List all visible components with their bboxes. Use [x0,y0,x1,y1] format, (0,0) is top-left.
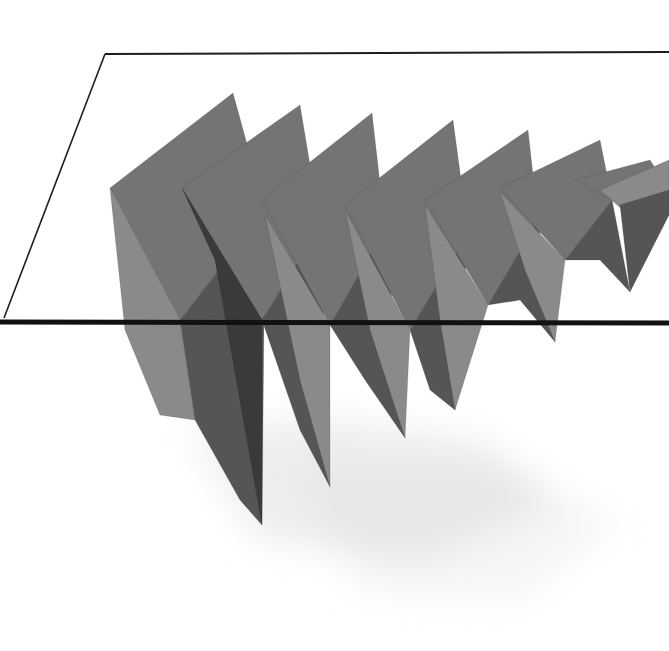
glass-table-folded-base-image [0,0,669,651]
glass-front-edge [0,322,669,323]
product-photo [0,0,669,651]
